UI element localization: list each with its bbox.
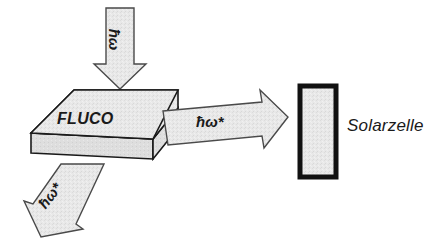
diagram-canvas: FLUCO Solarzelle ħω ħω* ħω*	[0, 0, 448, 245]
fluco-label: FLUCO	[57, 111, 114, 127]
solarzelle-label: Solarzelle	[347, 117, 424, 134]
incident-photon-label: ħω	[107, 29, 122, 51]
emitted-photon-right-label: ħω*	[196, 114, 224, 129]
solar-cell-shape	[300, 86, 336, 177]
emitted-right-arrow-shape	[163, 90, 288, 148]
solar-cell-rect	[300, 86, 336, 177]
emitted-photon-arrow-right	[163, 90, 288, 148]
